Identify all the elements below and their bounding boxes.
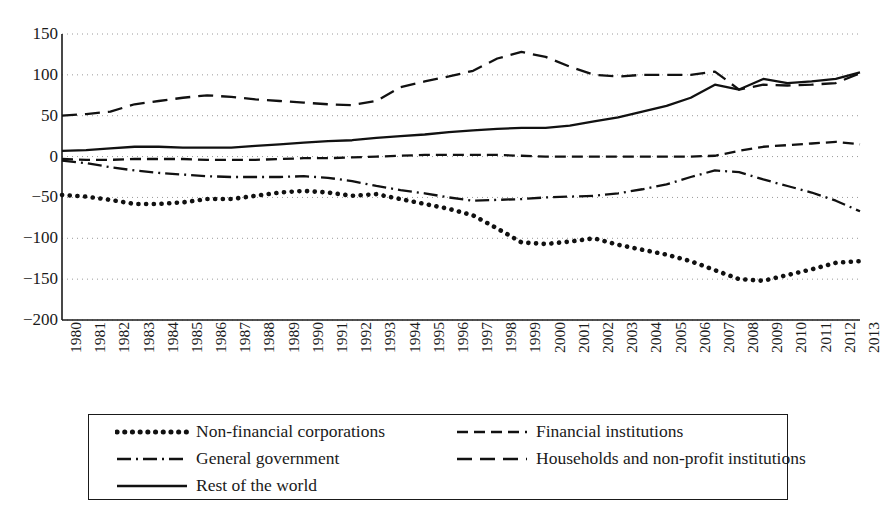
legend-line-swatch bbox=[455, 451, 529, 465]
y-tick-label: −100 bbox=[23, 229, 58, 246]
x-tick-label: 1997 bbox=[479, 322, 495, 353]
y-tick-label: 150 bbox=[33, 25, 59, 42]
legend-entry[interactable]: Financial institutions bbox=[439, 418, 789, 444]
x-tick-label: 2009 bbox=[769, 322, 785, 353]
x-tick-label: 1988 bbox=[261, 322, 277, 353]
x-tick-label: 1989 bbox=[286, 322, 302, 353]
chart-legend: Non-financial corporationsFinancial inst… bbox=[88, 414, 788, 500]
x-tick-label: 2010 bbox=[793, 322, 809, 353]
legend-line-swatch bbox=[115, 424, 189, 438]
x-tick-label: 2006 bbox=[697, 322, 713, 353]
x-tick-label: 2004 bbox=[648, 322, 664, 353]
legend-line-swatch bbox=[115, 478, 189, 492]
legend-grid: Non-financial corporationsFinancial inst… bbox=[89, 415, 787, 499]
x-tick-label: 1980 bbox=[68, 322, 84, 353]
y-axis-tick-labels: 150100500−50−100−150−200 bbox=[0, 0, 58, 340]
x-tick-label: 1994 bbox=[407, 322, 423, 353]
axis-lines-group bbox=[62, 34, 860, 320]
x-tick-label: 1992 bbox=[358, 322, 374, 353]
y-tick-label: 0 bbox=[50, 148, 59, 165]
x-tick-label: 2008 bbox=[745, 322, 761, 353]
series-line-4 bbox=[62, 52, 860, 116]
x-tick-label: 1996 bbox=[455, 322, 471, 353]
x-tick-label: 1999 bbox=[527, 322, 543, 353]
series-line-1 bbox=[62, 161, 860, 212]
x-tick-label: 1984 bbox=[165, 322, 181, 353]
x-tick-label: 1991 bbox=[334, 322, 350, 353]
legend-entry[interactable]: Rest of the world bbox=[89, 472, 439, 498]
x-tick-label: 2002 bbox=[600, 322, 616, 353]
legend-label: Financial institutions bbox=[536, 422, 683, 440]
series-line-0 bbox=[62, 191, 860, 281]
y-tick-label: 50 bbox=[41, 107, 58, 124]
legend-entry[interactable]: Households and non-profit institutions bbox=[439, 445, 789, 471]
legend-label: Rest of the world bbox=[196, 476, 317, 494]
gridlines-group bbox=[62, 34, 860, 320]
chart-canvas bbox=[0, 0, 872, 340]
x-tick-label: 1998 bbox=[503, 322, 519, 353]
x-tick-label: 2013 bbox=[866, 322, 882, 353]
x-tick-label: 1983 bbox=[141, 322, 157, 353]
x-tick-label: 2001 bbox=[576, 322, 592, 353]
x-tick-label: 1981 bbox=[92, 322, 108, 353]
x-tick-label: 2000 bbox=[552, 322, 568, 353]
x-axis-tick-labels: 1980198119821983198419851986198719881989… bbox=[0, 322, 872, 402]
x-tick-label: 2007 bbox=[721, 322, 737, 353]
x-tick-label: 2003 bbox=[624, 322, 640, 353]
x-tick-label: 2005 bbox=[673, 322, 689, 353]
x-tick-label: 2011 bbox=[818, 322, 834, 352]
x-tick-label: 1995 bbox=[431, 322, 447, 353]
series-line-2 bbox=[62, 72, 860, 150]
legend-entry[interactable]: General government bbox=[89, 445, 439, 471]
legend-label: Households and non-profit institutions bbox=[536, 449, 806, 467]
y-tick-label: −50 bbox=[31, 188, 58, 205]
x-tick-label: 2012 bbox=[842, 322, 858, 353]
x-tick-label: 1987 bbox=[237, 322, 253, 353]
y-tick-label: −150 bbox=[23, 270, 58, 287]
legend-line-swatch bbox=[115, 451, 189, 465]
legend-entry[interactable]: Non-financial corporations bbox=[89, 418, 439, 444]
x-tick-label: 1990 bbox=[310, 322, 326, 353]
y-tick-label: 100 bbox=[33, 66, 59, 83]
legend-line-swatch bbox=[455, 424, 529, 438]
legend-label: Non-financial corporations bbox=[196, 422, 385, 440]
x-tick-label: 1993 bbox=[382, 322, 398, 353]
x-tick-label: 1986 bbox=[213, 322, 229, 353]
x-tick-label: 1985 bbox=[189, 322, 205, 353]
series-line-3 bbox=[62, 142, 860, 160]
x-tick-label: 1982 bbox=[116, 322, 132, 353]
plot-area: 150100500−50−100−150−200 bbox=[0, 0, 872, 340]
legend-label: General government bbox=[196, 449, 339, 467]
data-series-group bbox=[62, 52, 860, 281]
